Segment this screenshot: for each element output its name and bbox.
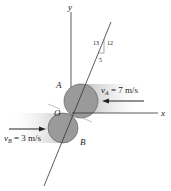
point-a-label: A (55, 80, 62, 90)
slope-run: 5 (99, 57, 102, 63)
slope-hyp: 13 (93, 40, 99, 46)
tangent-mark (80, 117, 92, 122)
point-b-label: B (80, 137, 86, 147)
collision-diagram: y x 13 12 5 A O B vA = 7 m/s vB = 3 m/s (0, 0, 171, 191)
y-axis-label: y (67, 2, 72, 12)
slope-rise: 12 (107, 40, 113, 46)
x-axis-label: x (160, 108, 165, 118)
point-o-label: O (54, 108, 61, 118)
